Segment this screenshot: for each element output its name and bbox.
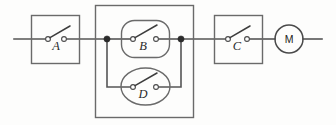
terminal-a-right (62, 37, 67, 42)
switch-label-c: C (233, 39, 242, 53)
switch-label-d: D (137, 87, 147, 101)
switch-label-b: B (139, 39, 147, 53)
junction-dot-left (104, 36, 110, 42)
terminal-c-right (245, 37, 250, 42)
circuit-diagram: A B D C M (0, 0, 336, 125)
switch-blade-a[interactable] (50, 26, 70, 38)
switch-blade-d[interactable] (135, 73, 157, 86)
terminal-b-right (154, 37, 159, 42)
switch-blade-b[interactable] (135, 25, 157, 38)
circuit-schematic-canvas: A B D C M (0, 0, 336, 125)
motor-m[interactable]: M (275, 25, 303, 53)
terminal-d-right (154, 85, 159, 90)
switch-blade-c[interactable] (230, 26, 250, 38)
motor-label: M (285, 33, 294, 45)
switch-label-a: A (51, 39, 60, 53)
junction-dot-right (178, 36, 184, 42)
wire-left-branch-down-to-d (107, 39, 133, 87)
